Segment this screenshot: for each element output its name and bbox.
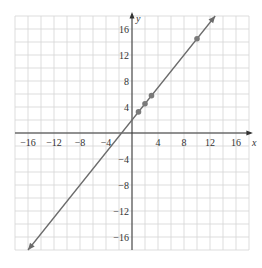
y-tick-label: −12 — [113, 206, 129, 217]
x-tick-label: −8 — [75, 137, 86, 148]
y-tick-label: 4 — [124, 102, 129, 113]
x-tick-label: −12 — [46, 137, 62, 148]
x-tick-label: 8 — [182, 137, 187, 148]
x-tick-label: 12 — [205, 137, 215, 148]
data-point — [136, 109, 142, 115]
y-tick-label: 8 — [124, 76, 129, 87]
x-tick-label: −16 — [20, 137, 36, 148]
x-tick-label: −4 — [101, 137, 112, 148]
y-axis-label: y — [135, 13, 141, 24]
y-arrow-icon — [130, 12, 135, 19]
y-tick-label: 16 — [119, 24, 129, 35]
x-tick-label: 4 — [156, 137, 161, 148]
graph: −16−12−8−4481216161284−4−8−12−16xy — [0, 0, 262, 268]
x-tick-label: 16 — [231, 137, 241, 148]
y-tick-label: −4 — [118, 154, 129, 165]
data-point — [194, 36, 200, 42]
data-point — [149, 93, 155, 99]
y-tick-label: −8 — [118, 180, 129, 191]
y-tick-label: 12 — [119, 50, 129, 61]
y-tick-label: −16 — [113, 232, 129, 243]
x-axis-label: x — [251, 137, 257, 148]
data-point — [142, 101, 148, 107]
x-arrow-icon — [246, 131, 253, 136]
